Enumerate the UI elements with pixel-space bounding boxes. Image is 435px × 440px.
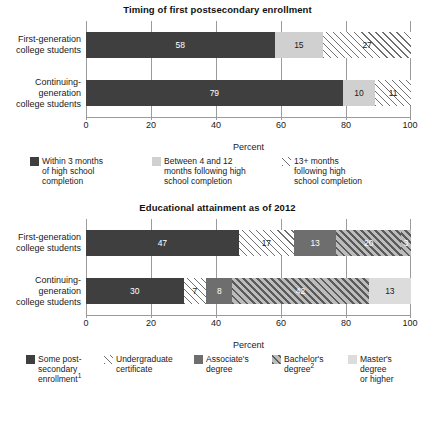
segment-bachelors-degree: 20 xyxy=(336,230,401,256)
chart1-legend-item-within-3-months: Within 3 months of high school completio… xyxy=(30,156,144,186)
chart2-legend-item-masters-degree: Master's degree or higher xyxy=(348,354,410,384)
chart2-plot-area: First-generation college students 47 17 … xyxy=(86,219,411,315)
tick-label-40: 40 xyxy=(211,120,221,130)
chart2-legend-item-some-postsecondary: Some post- secondary enrollment1 xyxy=(26,354,98,384)
chart2-legend-label-3: Bachelor's degree2 xyxy=(284,354,323,374)
chart2-x-axis: 0 20 40 60 80 100 xyxy=(86,315,411,329)
chart1-legend-label-0: Within 3 months of high school completio… xyxy=(42,156,103,186)
tick-label-80: 80 xyxy=(341,318,351,328)
chart2-legend-label-4: Master's degree or higher xyxy=(360,354,394,384)
chart2-legend-item-undergraduate-certificate: Undergraduate certificate xyxy=(104,354,188,384)
tick-label-40: 40 xyxy=(211,318,221,328)
chart2-legend-label-3-text: Bachelor's degree xyxy=(284,354,323,374)
legend-swatch-hatch-icon xyxy=(104,355,113,364)
segment-associates-degree: 13 xyxy=(294,230,336,256)
tick-label-60: 60 xyxy=(276,318,286,328)
tick-label-20: 20 xyxy=(146,318,156,328)
chart2-bar-first-generation: 47 17 13 20 3 xyxy=(86,230,411,256)
tick-label-0: 0 xyxy=(83,318,88,328)
tick-label-0: 0 xyxy=(83,120,88,130)
segment-4-to-12-months: 10 xyxy=(343,80,376,106)
segment-within-3-months: 58 xyxy=(86,32,275,58)
segment-within-3-months: 79 xyxy=(86,80,343,106)
chart1-legend-item-13-plus-months: 13+ months following high school complet… xyxy=(282,156,392,186)
segment-some-postsecondary: 30 xyxy=(86,278,184,304)
segment-some-postsecondary: 47 xyxy=(86,230,239,256)
chart2-plot-wrapper: First-generation college students 47 17 … xyxy=(86,219,411,315)
chart2-row-continuing-generation: Continuing- generation college students … xyxy=(86,267,411,315)
chart1-legend-label-2: 13+ months following high school complet… xyxy=(294,156,362,186)
chart2-legend-item-bachelors-degree: Bachelor's degree2 xyxy=(272,354,342,384)
chart2-legend-label-0-text: Some post- secondary enrollment xyxy=(38,354,81,384)
chart1-axis-caption: Percent xyxy=(86,142,411,152)
segment-associates-degree: 8 xyxy=(206,278,232,304)
chart1-plot-wrapper: First-generation college students 58 15 … xyxy=(86,21,411,117)
legend-swatch-gray-hatch-icon xyxy=(272,355,281,364)
chart2-axis-caption: Percent xyxy=(86,340,411,350)
tick-label-20: 20 xyxy=(146,120,156,130)
chart1-bar-first-generation: 58 15 27 xyxy=(86,32,411,58)
chart2-legend-footnote-1: 1 xyxy=(78,372,82,379)
chart1-row-first-generation: First-generation college students 58 15 … xyxy=(86,21,411,69)
chart1-title: Timing of first postsecondary enrollment xyxy=(0,4,435,15)
chart1-plot-area: First-generation college students 58 15 … xyxy=(86,21,411,117)
segment-13-plus-months: 11 xyxy=(375,80,411,106)
chart1-legend-label-1: Between 4 and 12 months following high s… xyxy=(164,156,246,186)
segment-masters-degree-or-higher: 3 xyxy=(401,230,411,256)
chart2-axis-line xyxy=(86,315,411,316)
chart1-x-axis: 0 20 40 60 80 100 xyxy=(86,117,411,131)
tick-label-100: 100 xyxy=(402,318,417,328)
legend-swatch-dark-icon xyxy=(30,157,39,166)
chart2-title: Educational attainment as of 2012 xyxy=(0,202,435,213)
chart2-bar-continuing-generation: 30 7 8 42 13 xyxy=(86,278,411,304)
chart1-row2-label: Continuing- generation college students xyxy=(0,77,81,110)
chart2-legend-label-0: Some post- secondary enrollment1 xyxy=(38,354,81,384)
segment-bachelors-degree: 42 xyxy=(232,278,369,304)
chart2-row-first-generation: First-generation college students 47 17 … xyxy=(86,219,411,267)
tick-label-60: 60 xyxy=(276,120,286,130)
segment-4-to-12-months: 15 xyxy=(275,32,324,58)
chart1-axis-line xyxy=(86,117,411,118)
chart2-legend: Some post- secondary enrollment1 Undergr… xyxy=(0,354,435,384)
tick-label-80: 80 xyxy=(341,120,351,130)
tick-label-100: 100 xyxy=(402,120,417,130)
chart2-legend-footnote-2: 2 xyxy=(310,362,314,369)
chart2-legend-label-1: Undergraduate certificate xyxy=(116,354,173,374)
chart2-row2-label: Continuing- generation college students xyxy=(0,275,81,308)
legend-swatch-dark-icon xyxy=(26,355,35,364)
chart1-legend-item-4-to-12-months: Between 4 and 12 months following high s… xyxy=(152,156,274,186)
legend-swatch-hatch-icon xyxy=(282,157,291,166)
legend-swatch-mid-gray-icon xyxy=(194,355,203,364)
legend-swatch-light-gray-icon xyxy=(152,157,161,166)
segment-masters-degree-or-higher: 13 xyxy=(369,278,411,304)
chart2-legend-label-2: Associate's degree xyxy=(206,354,249,374)
chart2-row1-label: First-generation college students xyxy=(0,232,81,254)
segment-undergraduate-certificate: 17 xyxy=(239,230,294,256)
chart1-bar-continuing-generation: 79 10 11 xyxy=(86,80,411,106)
chart-timing-first-postsecondary-enrollment: Timing of first postsecondary enrollment… xyxy=(0,0,435,186)
segment-13-plus-months: 27 xyxy=(323,32,411,58)
chart1-row1-label: First-generation college students xyxy=(0,34,81,56)
legend-swatch-lighter-gray-icon xyxy=(348,355,357,364)
chart2-legend-item-associates-degree: Associate's degree xyxy=(194,354,266,384)
chart1-legend: Within 3 months of high school completio… xyxy=(0,156,435,186)
segment-undergraduate-certificate: 7 xyxy=(184,278,207,304)
chart-educational-attainment-2012: Educational attainment as of 2012 First-… xyxy=(0,202,435,384)
chart1-row-continuing-generation: Continuing- generation college students … xyxy=(86,69,411,117)
